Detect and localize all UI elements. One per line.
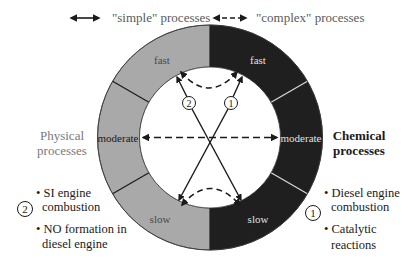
right-slow-label: slow	[248, 213, 269, 225]
physical-title-line1: Physical	[40, 128, 84, 143]
chemical-title-line2: processes	[333, 143, 385, 158]
chemical-marker-label: 1	[310, 207, 316, 219]
physical-item-2-line2: diesel engine	[42, 237, 108, 251]
chemical-item-1-line2: combustion	[331, 200, 390, 214]
left-fast-label: fast	[154, 54, 170, 66]
process-diagram: "simple" processes "complex" processes f…	[0, 0, 410, 266]
physical-item-1-line1: • SI engine	[36, 186, 92, 200]
right-moderate-label: moderate	[281, 132, 322, 144]
chemical-title-line1: Chemical	[333, 128, 386, 143]
left-slow-label: slow	[150, 213, 171, 225]
chemical-item-2-line1: • Catalytic	[324, 222, 377, 236]
physical-item-2-line1: • NO formation in	[36, 222, 128, 236]
physical-title-line2: processes	[37, 143, 87, 158]
physical-item-1-line2: combustion	[42, 200, 101, 214]
legend-complex-label: "complex" processes	[256, 10, 364, 25]
right-fast-label: fast	[250, 54, 266, 66]
legend: "simple" processes "complex" processes	[71, 10, 364, 25]
marker-2-label: 2	[187, 98, 192, 109]
marker-1-label: 1	[229, 98, 234, 109]
physical-marker-label: 2	[22, 203, 28, 215]
chemical-item-2-line2: reactions	[331, 238, 376, 252]
chemical-item-1-line1: • Diesel engine	[324, 186, 400, 200]
legend-simple-label: "simple" processes	[112, 10, 210, 25]
left-moderate-label: moderate	[98, 132, 139, 144]
